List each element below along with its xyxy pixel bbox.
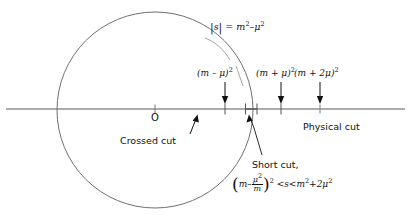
label-m-plus-2mu-exp: 2 [334,66,338,74]
label-m-minus-mu-base: (m – μ) [197,68,229,78]
ineq-two-mu: 2μ [317,179,329,189]
title-formula: |s| = m2–μ2 [210,22,265,34]
label-m-plus-2mu-base: (m + 2μ) [294,68,334,78]
mu-squared-over-m-fraction: μ2m [252,176,263,193]
short-cut-inequality: (m–μ2m)2 <s<m2+2μ2 [232,176,332,193]
abs-bar-close: | [219,22,223,34]
arrow-to-m-plus-2mu-squared [317,82,323,104]
ineq-plus: + [309,179,317,189]
arrow-to-m-minus-mu-squared [222,82,228,104]
arrow-crossed-cut [190,115,199,135]
ineq-two-mu-exp: 2 [328,177,332,185]
diagram-vector-layer [0,0,411,220]
equals-sign: = [225,21,233,32]
label-m-minus-mu-squared: (m – μ)2 [197,69,233,78]
frac-denominator-m: m [252,185,263,193]
arrow-to-m-plus-mu-squared [278,82,284,104]
origin-label: O [151,113,159,124]
paren-open: ( [232,178,239,190]
physical-cut-label: Physical cut [303,122,360,132]
leader-short-cut [246,115,262,156]
label-m-plus-mu-squared: (m + μ)2 [256,69,295,78]
ineq-m: m [239,179,248,189]
leader-m-minus-mu-label [236,66,243,86]
label-m-plus-mu-base: (m + μ) [256,68,291,78]
short-cut-label: Short cut, [252,160,299,170]
label-m-minus-mu-exp: 2 [229,66,233,74]
frac-numerator-exp: 2 [258,172,262,180]
leader-title-formula [205,38,230,60]
ineq-m2: m [296,179,305,189]
label-m-plus-2mu-squared: (m + 2μ)2 [294,69,339,78]
mu-exponent: 2 [260,20,264,28]
paren-close: ) [263,178,270,190]
cut-structure-diagram: |s| = m2–μ2 (m – μ)2 (m + μ)2 (m + 2μ)2 … [0,0,411,220]
ineq-outer-exp: 2 [270,177,274,185]
crossed-cut-label: Crossed cut [120,136,176,146]
